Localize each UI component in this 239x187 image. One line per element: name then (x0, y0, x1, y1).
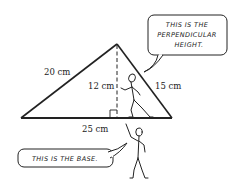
bubble-height-line-1: THIS IS THE (166, 21, 209, 29)
triangle-diagram: 20 cm 12 cm 15 cm 25 cm THIS IS THE PERP… (0, 0, 239, 187)
label-right-side: 15 cm (155, 81, 181, 91)
bubble-base-text: THIS IS THE BASE. (32, 155, 98, 163)
stick-figure-height (121, 73, 153, 117)
bubble-height-line-2: PERPENDICULAR (157, 31, 216, 39)
stick-figure-base (126, 124, 148, 178)
label-base: 25 cm (82, 124, 108, 134)
label-left-side: 20 cm (44, 67, 70, 77)
bubble-height-line-3: HEIGHT. (175, 41, 204, 49)
label-height: 12 cm (88, 81, 114, 91)
speech-bubble-height: THIS IS THE PERPENDICULAR HEIGHT. (144, 15, 227, 72)
speech-bubble-base: THIS IS THE BASE. (18, 143, 127, 167)
right-angle-marker (110, 110, 117, 118)
